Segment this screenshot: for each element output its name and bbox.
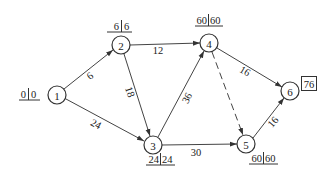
time-label-node-3: 24 24 — [146, 153, 175, 165]
time-label-node-2: 6 6 — [107, 20, 132, 32]
time-label-2-left: 6 — [114, 21, 119, 32]
time-label-5-left: 60 — [252, 153, 263, 164]
time-label-1-right: 0 — [31, 89, 36, 100]
node-label-1: 1 — [54, 90, 60, 102]
nodes: 1 2 3 4 5 6 — [48, 34, 299, 154]
edge-1-3 — [66, 99, 144, 141]
edge-weight-2-4: 12 — [153, 45, 164, 56]
node-label-2: 2 — [118, 40, 124, 52]
time-label-1-left: 0 — [21, 89, 26, 100]
network-diagram: 6 24 12 18 36 30 16 16 1 2 3 — [0, 0, 334, 174]
edge-3-5 — [162, 144, 237, 145]
edge-weight-2-3: 18 — [123, 85, 137, 98]
node-2: 2 — [112, 36, 130, 54]
time-label-node-1: 0 0 — [19, 88, 40, 100]
time-label-2-right: 6 — [124, 21, 129, 32]
edge-weight-3-5: 30 — [191, 147, 202, 158]
node-label-3: 3 — [150, 140, 156, 152]
node-5: 5 — [237, 135, 255, 153]
node-1: 1 — [48, 86, 66, 104]
node-label-6: 6 — [287, 86, 293, 98]
edge-weight-1-3: 24 — [89, 117, 104, 132]
final-time-box: 76 — [302, 77, 317, 91]
edge-4-5-dummy — [212, 52, 243, 135]
time-label-4-left: 60 — [197, 15, 208, 26]
edge-weight-4-6: 16 — [238, 64, 253, 79]
time-label-node-4: 60 60 — [195, 14, 223, 26]
time-label-4-right: 60 — [210, 15, 221, 26]
time-label-3-left: 24 — [149, 154, 160, 165]
edge-3-4 — [158, 51, 204, 137]
node-3: 3 — [144, 136, 162, 154]
node-4: 4 — [200, 34, 218, 52]
edge-2-4 — [130, 43, 200, 45]
time-label-3-right: 24 — [162, 154, 173, 165]
time-label-5-right: 60 — [265, 153, 276, 164]
edge-weight-5-6: 16 — [265, 114, 280, 129]
edge-weight-1-2: 6 — [85, 70, 96, 82]
node-6: 6 — [281, 82, 299, 100]
time-label-node-5: 60 60 — [249, 152, 278, 164]
node-label-5: 5 — [243, 139, 249, 151]
final-time-value: 76 — [304, 79, 315, 90]
edge-1-2 — [64, 50, 113, 89]
node-label-4: 4 — [206, 38, 212, 50]
